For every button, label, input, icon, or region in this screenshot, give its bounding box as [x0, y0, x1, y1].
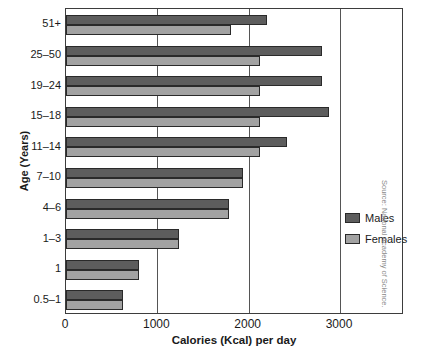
plot-area: [65, 8, 403, 314]
bar-males: [66, 76, 322, 86]
y-tick-label: 19–24: [1, 79, 61, 91]
bar-rows: [66, 9, 402, 313]
bar-row: [66, 254, 402, 285]
bar-row: [66, 70, 402, 101]
x-axis-title: Calories (Kcal) per day: [65, 334, 403, 346]
legend-item: Males: [345, 212, 405, 224]
bar-males: [66, 168, 243, 178]
bar-females: [66, 117, 260, 127]
bar-males: [66, 199, 229, 209]
bar-males: [66, 290, 123, 300]
bar-females: [66, 25, 231, 35]
bar-females: [66, 147, 260, 157]
bar-females: [66, 86, 260, 96]
bar-row: [66, 162, 402, 193]
x-tick-label: 0: [35, 317, 95, 331]
bar-row: [66, 284, 402, 315]
y-tick-label: 51+: [1, 17, 61, 29]
bar-row: [66, 9, 402, 40]
bar-males: [66, 229, 179, 239]
bar-males: [66, 46, 322, 56]
y-tick-label: 1–3: [1, 232, 61, 244]
y-tick-label: 25–50: [1, 48, 61, 60]
legend-swatch-icon: [345, 213, 360, 223]
bar-females: [66, 209, 229, 219]
y-axis-tick-labels: 51+25–5019–2415–1811–147–104–61–310.5–1: [0, 8, 61, 314]
legend-item: Females: [345, 233, 405, 245]
x-axis-tick-labels: 0100020003000: [0, 317, 430, 333]
bar-row: [66, 131, 402, 162]
y-tick-label: 4–6: [1, 201, 61, 213]
y-tick-label: 7–10: [1, 170, 61, 182]
source-note: Source: National Academy of Science.: [380, 180, 389, 340]
bar-males: [66, 137, 287, 147]
bar-females: [66, 270, 139, 280]
x-tick-label: 1000: [126, 317, 186, 331]
chart-figure: Age (Years) 51+25–5019–2415–1811–147–104…: [0, 0, 430, 363]
bar-females: [66, 300, 123, 310]
bar-males: [66, 107, 329, 117]
x-tick-label: 3000: [309, 317, 369, 331]
bar-males: [66, 260, 139, 270]
y-tick-label: 11–14: [1, 140, 61, 152]
y-tick-label: 0.5–1: [1, 293, 61, 305]
x-tick-label: 2000: [218, 317, 278, 331]
bar-females: [66, 56, 260, 66]
legend-swatch-icon: [345, 234, 360, 244]
chart-legend: MalesFemales: [345, 212, 405, 254]
y-tick-label: 15–18: [1, 109, 61, 121]
bar-row: [66, 101, 402, 132]
bar-females: [66, 239, 179, 249]
bar-females: [66, 178, 243, 188]
y-tick-label: 1: [1, 262, 61, 274]
bar-row: [66, 40, 402, 71]
bar-males: [66, 15, 267, 25]
